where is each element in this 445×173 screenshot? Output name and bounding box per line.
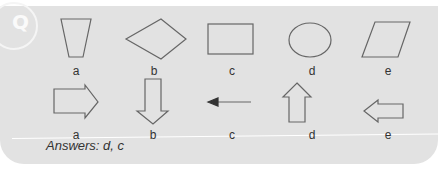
ellipse-shape bbox=[289, 23, 331, 57]
row2-label-b: b bbox=[143, 128, 163, 142]
arrow-left-outline-shape bbox=[364, 100, 403, 122]
row2-label-d: d bbox=[302, 128, 322, 142]
row1-label-b: b bbox=[144, 64, 164, 78]
trapezoid-shape bbox=[61, 19, 91, 57]
row1-label-a: a bbox=[66, 64, 86, 78]
answers-text: Answers: d, c bbox=[46, 138, 124, 153]
diamond-shape bbox=[126, 19, 186, 59]
row1-label-d: d bbox=[302, 64, 322, 78]
row2-label-c: c bbox=[222, 128, 242, 142]
arrow-up-outline-shape bbox=[283, 83, 311, 122]
rectangle-shape bbox=[208, 24, 253, 54]
row1-label-e: e bbox=[378, 64, 398, 78]
row2-label-e: e bbox=[378, 128, 398, 142]
row1-label-c: c bbox=[222, 64, 242, 78]
parallelogram-shape bbox=[362, 22, 410, 57]
arrow-right-outline-shape bbox=[54, 85, 98, 118]
arrow-left-line-head bbox=[208, 98, 218, 106]
arrow-down-outline-shape bbox=[137, 79, 168, 124]
